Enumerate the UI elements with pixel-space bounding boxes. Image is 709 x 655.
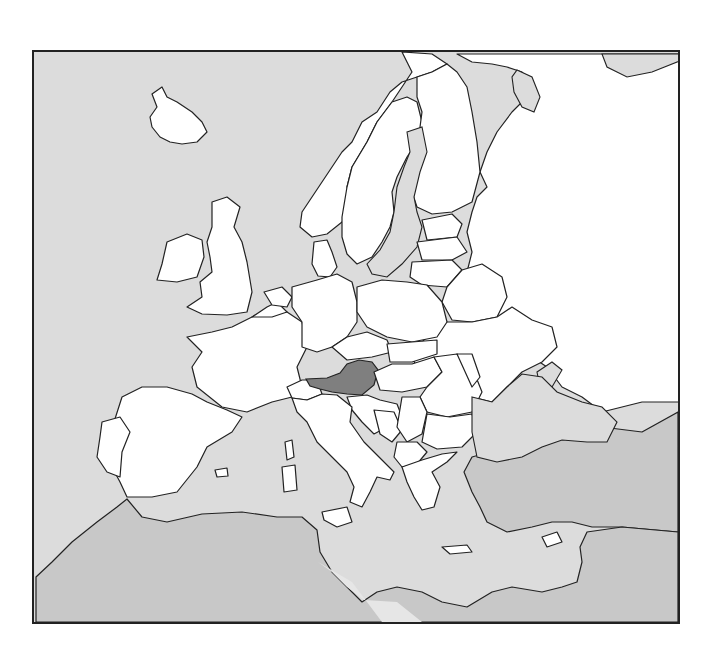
island-corsica[interactable] bbox=[285, 440, 294, 460]
europe-map bbox=[34, 52, 678, 622]
island-balearic[interactable] bbox=[215, 468, 228, 477]
island-sardinia[interactable] bbox=[282, 465, 297, 492]
map-frame: Europe Austria bbox=[32, 50, 680, 624]
